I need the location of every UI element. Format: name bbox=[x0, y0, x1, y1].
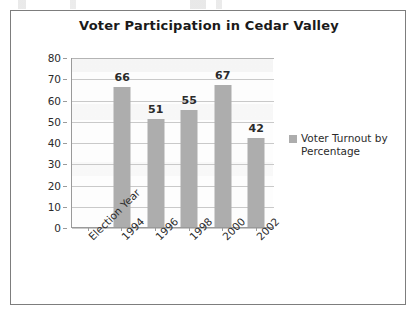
y-tick-label: 30 bbox=[48, 158, 61, 170]
bar[interactable] bbox=[248, 138, 265, 227]
plot-area-wrapper: 6651556742 bbox=[71, 58, 273, 228]
plot-area: 6651556742 bbox=[71, 58, 273, 228]
bar-slot: 42 bbox=[240, 58, 274, 227]
y-tick-mark bbox=[63, 122, 67, 123]
y-tick-label: 20 bbox=[48, 180, 61, 192]
bar[interactable] bbox=[214, 85, 231, 227]
x-tick-slot: 1994 bbox=[105, 228, 139, 303]
bar-value-label: 51 bbox=[148, 103, 163, 116]
bar-value-label: 42 bbox=[249, 122, 264, 135]
y-tick-label: 70 bbox=[48, 73, 61, 85]
y-tick-mark bbox=[63, 186, 67, 187]
y-tick-mark bbox=[63, 143, 67, 144]
chart-title: Voter Participation in Cedar Valley bbox=[11, 18, 407, 33]
y-tick-label: 80 bbox=[48, 52, 61, 64]
y-tick-label: 10 bbox=[48, 201, 61, 213]
chart-frame: Voter Participation in Cedar Valley 8070… bbox=[10, 10, 406, 305]
y-tick-label: 40 bbox=[48, 137, 61, 149]
x-tick-slot: 2002 bbox=[239, 228, 273, 303]
scan-artifact-strip bbox=[0, 0, 411, 9]
y-axis: 80706050403020100 bbox=[33, 58, 67, 228]
y-tick-mark bbox=[63, 79, 67, 80]
x-tick-slot: Election Year bbox=[71, 228, 105, 303]
x-axis: Election Year19941996199820002002 bbox=[71, 228, 273, 303]
y-tick-mark bbox=[63, 164, 67, 165]
bar-series: 6651556742 bbox=[72, 58, 273, 227]
legend-label: Voter Turnout by Percentage bbox=[301, 132, 401, 158]
x-tick-slot: 2000 bbox=[206, 228, 240, 303]
y-tick-mark bbox=[63, 58, 67, 59]
bar[interactable] bbox=[147, 119, 164, 227]
x-tick-slot: 1998 bbox=[172, 228, 206, 303]
bar-slot: 67 bbox=[206, 58, 240, 227]
y-tick-label: 0 bbox=[54, 222, 61, 234]
y-tick-label: 50 bbox=[48, 116, 61, 128]
y-tick-label: 60 bbox=[48, 95, 61, 107]
bar-value-label: 66 bbox=[115, 71, 130, 84]
bar-slot bbox=[72, 58, 106, 227]
y-tick-mark bbox=[63, 101, 67, 102]
bar-slot: 55 bbox=[173, 58, 207, 227]
bar-value-label: 55 bbox=[182, 94, 197, 107]
legend-swatch-icon bbox=[289, 135, 297, 143]
y-tick-mark bbox=[63, 207, 67, 208]
bar-value-label: 67 bbox=[215, 69, 230, 82]
chart-legend: Voter Turnout by Percentage bbox=[289, 132, 401, 158]
y-tick-mark bbox=[63, 228, 67, 229]
bar[interactable] bbox=[181, 110, 198, 227]
x-tick-slot: 1996 bbox=[138, 228, 172, 303]
bar-slot: 51 bbox=[139, 58, 173, 227]
